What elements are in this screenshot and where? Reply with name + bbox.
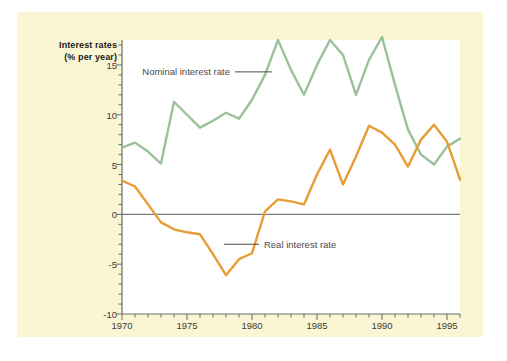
- x-tick-label: 1975: [176, 320, 197, 331]
- x-tick-label: 1990: [371, 320, 392, 331]
- annotation-real: Real interest rate: [224, 239, 336, 250]
- series-line-nominal: [122, 37, 460, 165]
- y-tick-label: 10: [87, 109, 117, 120]
- y-tick-label: -5: [87, 259, 117, 270]
- y-tick-label: 15: [87, 59, 117, 70]
- x-axis-tick-labels: 197019751980198519901995: [122, 320, 460, 336]
- series-line-real: [122, 125, 460, 275]
- line-chart-svg: Nominal interest rateReal interest rate: [122, 40, 460, 314]
- x-tick-label: 1980: [241, 320, 262, 331]
- y-tick-label: 0: [87, 209, 117, 220]
- y-tick-label: -10: [87, 309, 117, 320]
- annotation-nominal: Nominal interest rate: [142, 66, 272, 77]
- figure-panel: Interest rates (% per year) 151050-5-10 …: [17, 12, 483, 337]
- x-tick-label: 1995: [436, 320, 457, 331]
- annotation-label: Real interest rate: [264, 239, 336, 250]
- annotation-label: Nominal interest rate: [142, 66, 230, 77]
- plot-wrapper: Nominal interest rateReal interest rate: [122, 40, 460, 314]
- x-tick-label: 1970: [111, 320, 132, 331]
- x-tick-label: 1985: [306, 320, 327, 331]
- y-tick-label: 5: [87, 159, 117, 170]
- y-axis-tick-labels: 151050-5-10: [85, 40, 117, 314]
